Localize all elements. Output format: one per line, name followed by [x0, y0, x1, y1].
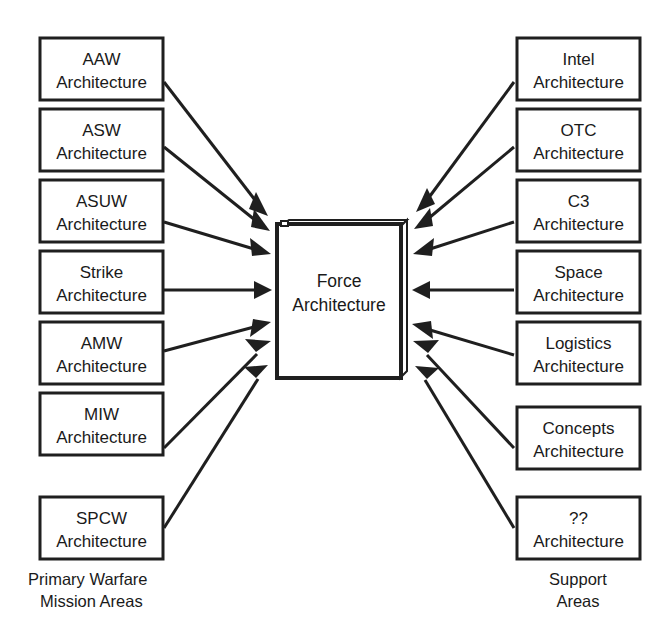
node-amw-line2: Architecture: [56, 357, 147, 376]
force-architecture-line2: Architecture: [292, 295, 385, 315]
node-intel-line2: Architecture: [533, 73, 624, 92]
node-miw-architecture[interactable]: MIW Architecture: [40, 393, 163, 455]
node-asw-line2: Architecture: [56, 144, 147, 163]
arrows-left-group: [164, 82, 272, 528]
book-corner-notch: [281, 221, 288, 226]
node-miw-line2: Architecture: [56, 428, 147, 447]
node-intel-line1: Intel: [562, 50, 594, 69]
left-group-label-line1: Primary Warfare: [28, 570, 147, 588]
force-architecture-line1: Force: [317, 271, 362, 291]
node-unknown-line2: Architecture: [533, 532, 624, 551]
left-group-label-line2: Mission Areas: [40, 592, 143, 610]
node-aaw-line2: Architecture: [56, 73, 147, 92]
node-concepts-architecture[interactable]: Concepts Architecture: [517, 407, 640, 469]
node-strike-line2: Architecture: [56, 286, 147, 305]
node-space-line1: Space: [554, 263, 602, 282]
node-aaw-line1: AAW: [82, 50, 120, 69]
left-group-label: Primary Warfare Mission Areas: [28, 570, 147, 610]
node-asuw-architecture[interactable]: ASUW Architecture: [40, 180, 163, 242]
arrow-space-to-force: [412, 281, 514, 299]
right-group-label: Support Areas: [549, 570, 607, 610]
node-otc-line2: Architecture: [533, 144, 624, 163]
node-otc-architecture[interactable]: OTC Architecture: [517, 109, 640, 171]
node-strike-architecture[interactable]: Strike Architecture: [40, 251, 163, 313]
node-unknown-line1: ??: [569, 509, 588, 528]
node-logistics-line1: Logistics: [545, 334, 611, 353]
node-miw-line1: MIW: [84, 405, 119, 424]
arrow-c3-to-force: [413, 222, 514, 256]
right-group-label-line1: Support: [549, 570, 607, 588]
arrow-strike-to-force: [164, 281, 272, 299]
node-logistics-line2: Architecture: [533, 357, 624, 376]
node-strike-line1: Strike: [80, 263, 123, 282]
right-group-label-line2: Areas: [556, 592, 599, 610]
node-asuw-line2: Architecture: [56, 215, 147, 234]
node-logistics-architecture[interactable]: Logistics Architecture: [517, 322, 640, 384]
arrow-spcw-to-force: [164, 365, 268, 528]
node-spcw-architecture[interactable]: SPCW Architecture: [40, 497, 163, 559]
node-asuw-line1: ASUW: [76, 192, 127, 211]
node-c3-line2: Architecture: [533, 215, 624, 234]
arrow-otc-to-force: [414, 147, 514, 229]
node-asw-line1: ASW: [82, 121, 121, 140]
node-amw-architecture[interactable]: AMW Architecture: [40, 322, 163, 384]
right-nodes-group: Intel Architecture OTC Architecture C3 A…: [517, 38, 640, 559]
node-otc-line1: OTC: [561, 121, 597, 140]
node-spcw-line2: Architecture: [56, 532, 147, 551]
arrow-concepts-to-force: [413, 340, 514, 448]
node-spcw-line1: SPCW: [76, 509, 127, 528]
arrow-intel-to-force: [416, 82, 514, 212]
arrows-right-group: [412, 82, 514, 528]
arrow-unknown-to-force: [415, 366, 514, 528]
arrow-miw-to-force: [164, 339, 271, 448]
arrow-aaw-to-force: [164, 82, 268, 216]
node-space-line2: Architecture: [533, 286, 624, 305]
arrow-asw-to-force: [164, 147, 270, 231]
left-nodes-group: AAW Architecture ASW Architecture ASUW A…: [40, 38, 163, 559]
node-c3-line1: C3: [568, 192, 590, 211]
node-asw-architecture[interactable]: ASW Architecture: [40, 109, 163, 171]
node-c3-architecture[interactable]: C3 Architecture: [517, 180, 640, 242]
node-intel-architecture[interactable]: Intel Architecture: [517, 38, 640, 100]
node-aaw-architecture[interactable]: AAW Architecture: [40, 38, 163, 100]
force-architecture-diagram: AAW Architecture ASW Architecture ASUW A…: [0, 0, 670, 640]
node-concepts-line1: Concepts: [543, 419, 615, 438]
node-space-architecture[interactable]: Space Architecture: [517, 251, 640, 313]
node-concepts-line2: Architecture: [533, 442, 624, 461]
force-architecture-node[interactable]: Force Architecture: [277, 220, 407, 378]
node-amw-line1: AMW: [81, 334, 123, 353]
node-unknown-architecture[interactable]: ?? Architecture: [517, 497, 640, 559]
